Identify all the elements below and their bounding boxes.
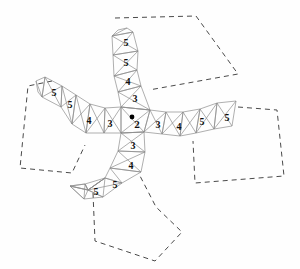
mesh-cell-down-6 <box>70 178 105 190</box>
figure-root: 23455345534553455 <box>0 0 300 269</box>
mesh-diagonal <box>90 104 104 133</box>
dashed-regions-group <box>20 16 284 261</box>
mesh-diagonal <box>121 107 144 132</box>
mesh-diagonal <box>121 86 141 107</box>
cell-label-arm-left-1: 3 <box>108 118 113 129</box>
cell-label-arm-right-3: 5 <box>200 116 205 127</box>
mesh-cell-up-5 <box>112 28 133 36</box>
mesh-cell-left-6 <box>36 77 45 97</box>
mesh-diagonal <box>110 152 145 168</box>
cell-label-arm-left-2: 4 <box>87 115 92 126</box>
cell-label-arm-up-1: 3 <box>133 93 138 104</box>
cell-label-arm-up-4: 5 <box>124 37 129 48</box>
cell-label-arm-right-1: 3 <box>156 119 161 130</box>
cell-label-arm-up-2: 4 <box>126 76 131 87</box>
mesh-edge <box>121 132 144 133</box>
cell-label-center: 2 <box>134 118 140 130</box>
dashed-region-bottom <box>93 174 182 261</box>
cell-label-arm-right-2: 4 <box>177 121 182 132</box>
cell-label-arm-down-2: 4 <box>129 160 134 171</box>
cell-label-arm-down-3: 5 <box>113 179 118 190</box>
cell-label-arm-down-1: 3 <box>131 140 136 151</box>
mesh-cell-down-3 <box>105 168 141 183</box>
cell-label-arm-down-4: 5 <box>94 186 99 197</box>
dashed-region-top-right <box>115 16 238 90</box>
cell-label-arm-right-4: 5 <box>225 112 230 123</box>
mesh-diagram: 23455345534553455 <box>0 0 300 269</box>
cell-label-arm-left-3: 5 <box>68 99 73 110</box>
mesh-diagonal <box>103 178 105 197</box>
cell-label-arm-up-3: 5 <box>124 57 129 68</box>
mesh-cells-group <box>36 28 236 199</box>
cell-label-arm-left-4: 5 <box>52 87 57 98</box>
